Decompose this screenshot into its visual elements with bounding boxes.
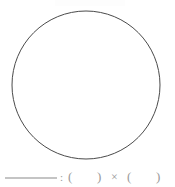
worksheet-page: : ( ) × ( )	[0, 0, 175, 187]
circle-figure-svg	[0, 0, 175, 165]
circle-outline	[12, 11, 160, 159]
open-paren-2-glyph: (	[127, 169, 131, 184]
answer-line-svg: : ( ) × ( )	[0, 164, 175, 187]
multiplication-glyph: ×	[111, 170, 118, 184]
close-paren-2-glyph: )	[156, 169, 160, 184]
colon-glyph: :	[60, 171, 63, 183]
answer-line-row: : ( ) × ( )	[0, 164, 175, 187]
open-paren-1-glyph: (	[68, 169, 72, 184]
close-paren-1-glyph: )	[97, 169, 101, 184]
circle-figure	[0, 0, 175, 165]
